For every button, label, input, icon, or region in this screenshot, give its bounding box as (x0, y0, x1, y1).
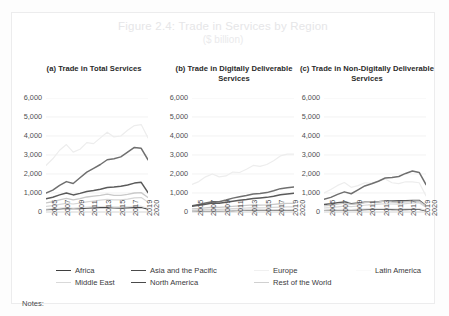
legend-item[interactable]: Latin America (356, 266, 421, 276)
y-axis-tick-label: 1,000 (292, 188, 320, 197)
legend-item[interactable]: Europe (254, 266, 298, 276)
y-axis-tick-label: 2,000 (14, 169, 42, 178)
y-axis-tick-label: 3,000 (160, 150, 188, 159)
legend-item[interactable]: Middle East (56, 278, 115, 288)
figure-page: Figure 2.4: Trade in Services by Region … (0, 0, 449, 316)
y-axis-tick-label: 4,000 (292, 131, 320, 140)
x-axis-tick-label: 2009 (355, 200, 364, 216)
y-axis-tick-label: 5,000 (292, 112, 320, 121)
chart-panel-b: (b) Trade in Digitally Deliverable Servi… (160, 64, 308, 83)
x-axis-tick-label: 2017 (131, 200, 140, 216)
legend-item-label: Asia and the Pacific (150, 266, 217, 275)
x-axis-tick-label: 2005 (196, 200, 205, 216)
legend-item-label: Middle East (75, 278, 115, 287)
chart-svg-a (46, 98, 148, 213)
legend-swatch-icon (56, 282, 71, 283)
y-axis-tick-label: 6,000 (14, 93, 42, 102)
x-axis-tick-label: 2015 (118, 200, 127, 216)
x-axis-tick-label: 2013 (104, 200, 113, 216)
series-line (46, 125, 148, 166)
x-axis-tick-label: 2020 (430, 200, 439, 216)
x-axis-tick-label: 2007 (63, 200, 72, 216)
legend-item-label: Latin America (375, 266, 421, 275)
chart-panel-c: (c) Trade in Non-Digitally Deliverable S… (292, 64, 442, 83)
y-axis-tick-label: 4,000 (14, 131, 42, 140)
x-axis-tick-label: 2011 (90, 200, 99, 216)
x-axis-tick-label: 2013 (382, 200, 391, 216)
legend-swatch-icon (131, 270, 146, 271)
legend-item[interactable]: Rest of the World (254, 278, 332, 288)
chart-title-a: (a) Trade in Total Services (14, 64, 174, 74)
x-axis-tick-label: 2011 (236, 200, 245, 216)
y-axis-tick-label: 3,000 (14, 150, 42, 159)
legend-item-label: Rest of the World (273, 278, 332, 287)
chart-title-c: (c) Trade in Non-Digitally Deliverable S… (292, 64, 442, 83)
x-axis-tick-label: 2007 (209, 200, 218, 216)
y-axis-tick-label: 5,000 (14, 112, 42, 121)
series-line (192, 154, 294, 184)
y-axis-tick-label: 2,000 (160, 169, 188, 178)
x-axis-tick-label: 2005 (328, 200, 337, 216)
y-axis-tick-label: 1,000 (14, 188, 42, 197)
x-axis-tick-label: 2015 (264, 200, 273, 216)
x-axis-tick-label: 2007 (341, 200, 350, 216)
x-axis-tick-label: 2005 (50, 200, 59, 216)
chart-legend: AfricaAsia and the PacificEuropeLatin Am… (11, 266, 435, 294)
legend-item[interactable]: Asia and the Pacific (131, 266, 217, 276)
y-axis-tick-label: 0 (14, 207, 42, 216)
legend-swatch-icon (131, 282, 146, 283)
chart-svg-b (192, 98, 294, 213)
legend-swatch-icon (254, 282, 269, 283)
chart-svg-c (324, 98, 426, 213)
y-axis-tick-label: 4,000 (160, 131, 188, 140)
x-axis-tick-label: 2009 (223, 200, 232, 216)
series-line (46, 147, 148, 193)
x-axis-tick-label: 2011 (368, 200, 377, 216)
legend-item[interactable]: North America (131, 278, 198, 288)
y-axis-tick-label: 1,000 (160, 188, 188, 197)
y-axis-tick-label: 6,000 (160, 93, 188, 102)
legend-item-label: Europe (273, 266, 298, 275)
y-axis-tick-label: 5,000 (160, 112, 188, 121)
y-axis-tick-label: 0 (292, 207, 320, 216)
legend-item-label: North America (150, 278, 198, 287)
legend-swatch-icon (254, 270, 269, 271)
y-axis-tick-label: 0 (160, 207, 188, 216)
x-axis-tick-label: 2015 (396, 200, 405, 216)
x-axis-tick-label: 2013 (250, 200, 259, 216)
notes-label: Notes: (22, 299, 44, 308)
legend-swatch-icon (56, 270, 71, 271)
figure-title: Figure 2.4: Trade in Services by Region (11, 19, 435, 33)
legend-item-label: Africa (75, 266, 94, 275)
chart-title-b: (b) Trade in Digitally Deliverable Servi… (160, 64, 308, 83)
x-axis-tick-label: 2009 (77, 200, 86, 216)
x-axis-tick-label: 2017 (277, 200, 286, 216)
legend-item[interactable]: Africa (56, 266, 94, 276)
legend-swatch-icon (356, 270, 371, 271)
y-axis-tick-label: 2,000 (292, 169, 320, 178)
chart-panel-a: (a) Trade in Total Services 01,0002,0003… (14, 64, 174, 74)
y-axis-tick-label: 3,000 (292, 150, 320, 159)
x-axis-tick-label: 2017 (409, 200, 418, 216)
y-axis-tick-label: 6,000 (292, 93, 320, 102)
figure-subtitle: ($ billion) (11, 33, 435, 46)
